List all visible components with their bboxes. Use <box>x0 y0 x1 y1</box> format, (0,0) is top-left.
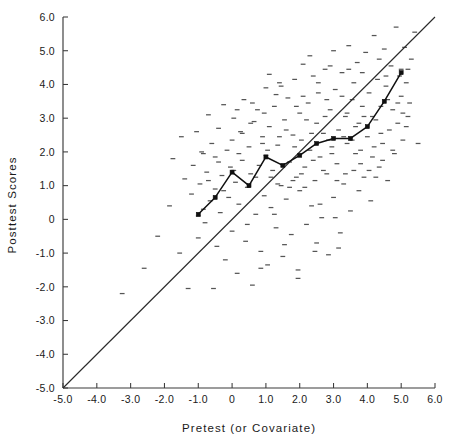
binned-mean-marker <box>382 99 386 103</box>
y-tick-label: -1.0 <box>36 247 55 259</box>
x-tick-label: 4.0 <box>360 393 376 405</box>
y-tick-label: 0 <box>49 213 55 225</box>
x-tick-label: -5.0 <box>53 393 72 405</box>
binned-mean-marker <box>247 184 251 188</box>
binned-mean-marker <box>281 163 285 167</box>
y-tick-label: 4.0 <box>40 78 56 90</box>
y-tick-label: -3.0 <box>36 314 55 326</box>
y-tick-label: 3.0 <box>40 112 56 124</box>
y-tick-label: 1.0 <box>40 179 56 191</box>
x-axis-title: Pretest (or Covariate) <box>182 422 316 434</box>
x-tick-label: 3.0 <box>326 393 342 405</box>
y-tick-label: 5.0 <box>40 45 56 57</box>
plot-canvas: 6.05.04.03.02.01.00-1.0-2.0-3.0-4.0-5.0 … <box>0 0 454 440</box>
binned-mean-marker <box>213 195 217 199</box>
x-tick-label: 1.0 <box>258 393 274 405</box>
y-tick-label: -4.0 <box>36 348 55 360</box>
binned-mean-marker <box>399 71 403 75</box>
scatter-plot-figure: 6.05.04.03.02.01.00-1.0-2.0-3.0-4.0-5.0 … <box>0 0 454 440</box>
binned-mean-marker <box>264 155 268 159</box>
x-tick-label: 0 <box>229 393 235 405</box>
scatter-point-group <box>120 27 421 293</box>
binned-means-line <box>198 73 401 215</box>
identity-reference-line <box>63 17 435 388</box>
binned-mean-marker <box>332 136 336 140</box>
y-tick-label: -5.0 <box>36 382 55 394</box>
y-axis-tick-labels: 6.05.04.03.02.01.00-1.0-2.0-3.0-4.0-5.0 <box>36 11 55 394</box>
binned-mean-marker <box>230 170 234 174</box>
binned-mean-marker <box>298 153 302 157</box>
binned-mean-marker <box>196 212 200 216</box>
y-tick-label: -2.0 <box>36 281 55 293</box>
y-axis-title: Posttest Scores <box>6 156 18 253</box>
x-tick-label: -2.0 <box>155 393 174 405</box>
x-tick-label: 6.0 <box>427 393 443 405</box>
x-tick-label: 2.0 <box>292 393 308 405</box>
x-tick-label: -1.0 <box>189 393 208 405</box>
x-axis-tick-labels: -5.0-4.0-3.0-2.0-1.001.02.03.04.05.06.0 <box>53 393 442 405</box>
x-tick-label: -4.0 <box>87 393 106 405</box>
binned-means-markers <box>196 71 403 217</box>
binned-mean-marker <box>348 136 352 140</box>
y-tick-label: 2.0 <box>40 146 56 158</box>
binned-mean-marker <box>315 141 319 145</box>
y-tick-label: 6.0 <box>40 11 56 23</box>
x-tick-label: 5.0 <box>393 393 409 405</box>
x-tick-label: -3.0 <box>121 393 140 405</box>
binned-mean-marker <box>365 125 369 129</box>
